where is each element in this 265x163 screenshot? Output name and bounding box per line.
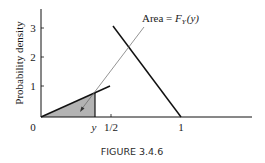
x-tick-label-half: 1/2: [104, 121, 118, 133]
annotation-leader: [81, 27, 144, 110]
decreasing-density-line: [113, 26, 181, 117]
y-tick-label-3: 3: [30, 22, 36, 34]
density-figure: Area = FY(y) 3 2 1 Probability density 0…: [0, 0, 265, 163]
y-tick-label-2: 2: [30, 51, 36, 63]
x-tick-label-y: y: [91, 121, 97, 133]
y-axis-label: Probability density: [13, 21, 25, 105]
x-tick-label-1: 1: [178, 121, 184, 133]
y-tick-label-1: 1: [30, 80, 36, 92]
figure-caption: FIGURE 3.4.6: [101, 146, 163, 157]
x-tick-label-0: 0: [30, 121, 36, 133]
annotation-label: Area = FY(y): [142, 12, 199, 26]
